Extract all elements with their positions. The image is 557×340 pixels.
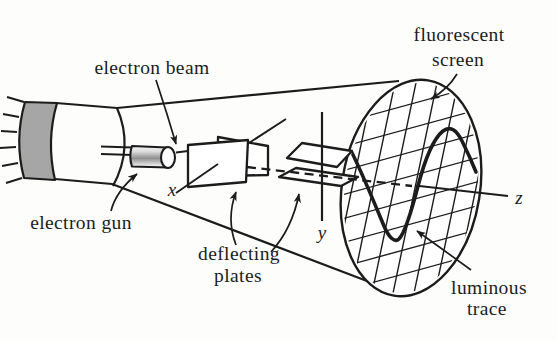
label-screen: screen: [432, 49, 484, 70]
x-plate-front: [188, 140, 248, 187]
label-deflecting: deflecting: [198, 243, 280, 264]
crt-figure: electron beam fluorescent screen electro…: [0, 0, 557, 340]
gun-support-wire: [101, 154, 133, 155]
label-fluorescent: fluorescent: [413, 24, 504, 45]
label-electron-beam: electron beam: [94, 57, 209, 78]
label-trace: trace: [467, 298, 507, 319]
gun-support-wire: [101, 147, 133, 148]
label-x-axis: x: [167, 179, 177, 200]
label-plates: plates: [214, 265, 262, 286]
crt-diagram: electron beam fluorescent screen electro…: [0, 0, 557, 340]
label-z-axis: z: [514, 187, 523, 208]
base-gray-band: [19, 102, 57, 180]
label-y-axis: y: [316, 222, 327, 243]
base-pin: [0, 147, 16, 148]
gun-cylinder-cap: [161, 147, 175, 168]
base-pin: [1, 131, 17, 132]
label-electron-gun: electron gun: [30, 212, 132, 233]
label-luminous: luminous: [451, 277, 527, 298]
